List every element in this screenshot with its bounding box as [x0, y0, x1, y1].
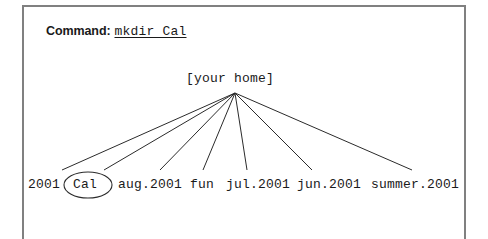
tree-leaf-node: fun: [190, 178, 214, 191]
figure-container: Command:mkdir Cal [your home] 2001Calaug…: [0, 0, 488, 239]
command-value: mkdir Cal: [114, 24, 186, 39]
figure-frame-border: [22, 5, 466, 239]
command-label: Command:: [46, 24, 110, 38]
command-line: Command:mkdir Cal: [46, 22, 187, 38]
tree-leaf-node: summer.2001: [371, 178, 459, 191]
tree-leaf-node: aug.2001: [118, 178, 182, 191]
tree-leaf-node: jul.2001: [226, 178, 290, 191]
tree-root-node: [your home]: [186, 72, 274, 85]
tree-leaf-node: 2001: [28, 178, 60, 191]
tree-leaf-node: jun.2001: [297, 178, 361, 191]
tree-leaf-node: Cal: [73, 178, 97, 191]
